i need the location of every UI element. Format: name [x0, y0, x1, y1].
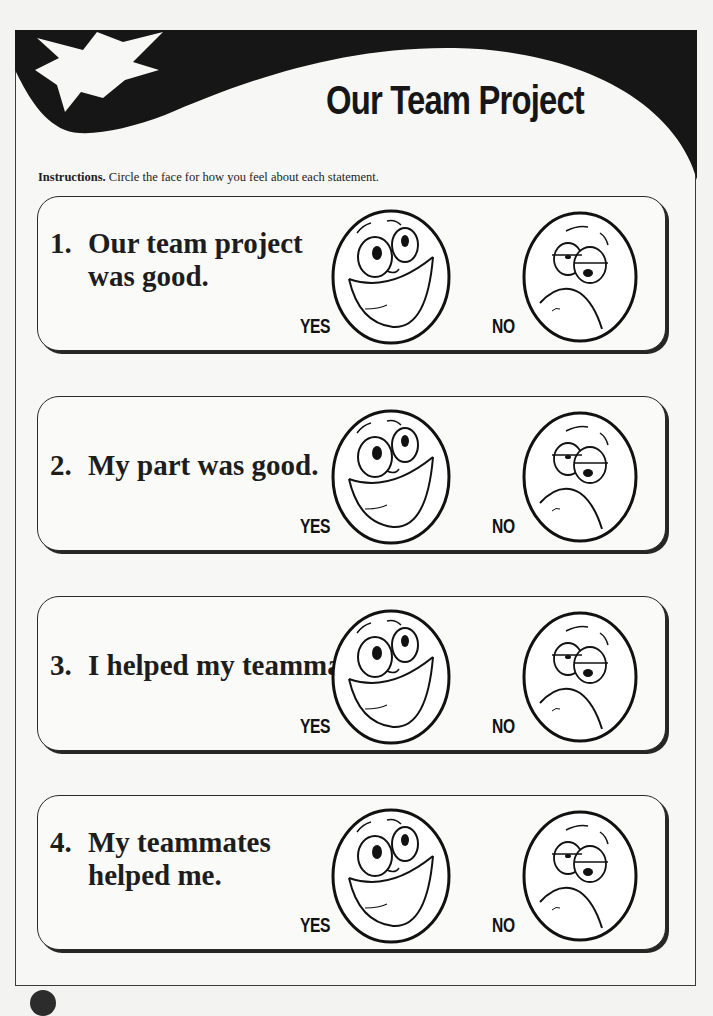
page-title: Our Team Project [324, 78, 586, 123]
sad-face-icon[interactable] [516, 605, 644, 745]
happy-face-icon[interactable] [327, 205, 455, 345]
statement-text: 2.My part was good. [50, 449, 318, 482]
happy-face-icon[interactable] [327, 605, 455, 745]
yes-label: YES [300, 515, 330, 538]
yes-label: YES [300, 715, 330, 738]
no-label: NO [492, 315, 515, 338]
happy-face-icon[interactable] [327, 405, 455, 545]
instructions-text: Circle the face for how you feel about e… [106, 170, 379, 184]
statement-card-2: 2.My part was good. YES NO [37, 396, 666, 551]
statement-text: 1.Our team project was good. [50, 227, 303, 293]
statement-card-1: 1.Our team project was good. YES NO [37, 196, 666, 351]
sad-face-icon[interactable] [516, 405, 644, 545]
sad-face-icon[interactable] [516, 804, 644, 944]
instructions: Instructions. Circle the face for how yo… [38, 170, 379, 185]
happy-face-icon[interactable] [327, 804, 455, 944]
no-label: NO [492, 515, 515, 538]
instructions-lead: Instructions. [38, 170, 106, 184]
page-number-circle [30, 990, 56, 1016]
no-label: NO [492, 914, 515, 937]
statement-card-3: 3.I helped my teammates. YES NO [37, 596, 666, 751]
statement-text: 4.My teammates helped me. [50, 826, 271, 892]
statement-card-4: 4.My teammates helped me. YES NO [37, 795, 666, 950]
yes-label: YES [300, 914, 330, 937]
no-label: NO [492, 715, 515, 738]
sad-face-icon[interactable] [516, 205, 644, 345]
yes-label: YES [300, 315, 330, 338]
